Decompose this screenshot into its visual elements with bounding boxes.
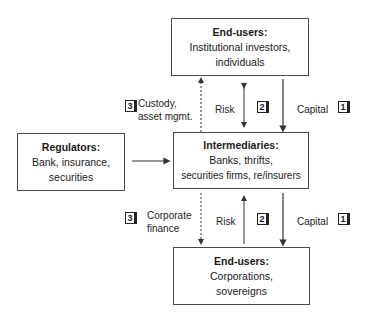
badge-2-upper: 2 [257,101,269,113]
box-line: Institutional investors, [190,40,291,55]
box-line: securities firms, re/insurers [181,168,300,183]
box-line: Banks, thrifts, [209,153,273,168]
box-line: individuals [215,55,264,70]
regulators-box: Regulators: Bank, insurance, securities [17,133,125,191]
box-title: End-users: [213,25,268,40]
custody-label: Custody, asset mgmt. [138,97,192,123]
risk-label-lower: Risk [216,215,235,228]
box-line: sovereigns [216,284,267,299]
capital-label-lower: Capital [297,215,328,228]
end-users-investors-box: End-users: Institutional investors, indi… [171,18,309,76]
badge-1-lower: 1 [338,213,350,225]
box-title: Intermediaries: [203,138,278,153]
box-line: securities [49,170,93,185]
capital-label-upper: Capital [297,103,328,116]
badge-1-upper: 1 [338,101,350,113]
end-users-corporations-box: End-users: Corporations, sovereigns [173,247,310,305]
box-title: End-users: [214,254,269,269]
badge-3-upper: 3 [125,100,137,112]
box-line: Bank, insurance, [32,155,110,170]
box-line: Corporations, [210,269,273,284]
box-title: Regulators: [42,140,100,155]
risk-label-upper: Risk [215,103,234,116]
badge-3-lower: 3 [125,212,137,224]
badge-2-lower: 2 [257,213,269,225]
corporate-finance-label: Corporate finance [147,209,191,235]
intermediaries-box: Intermediaries: Banks, thrifts, securiti… [173,132,309,189]
